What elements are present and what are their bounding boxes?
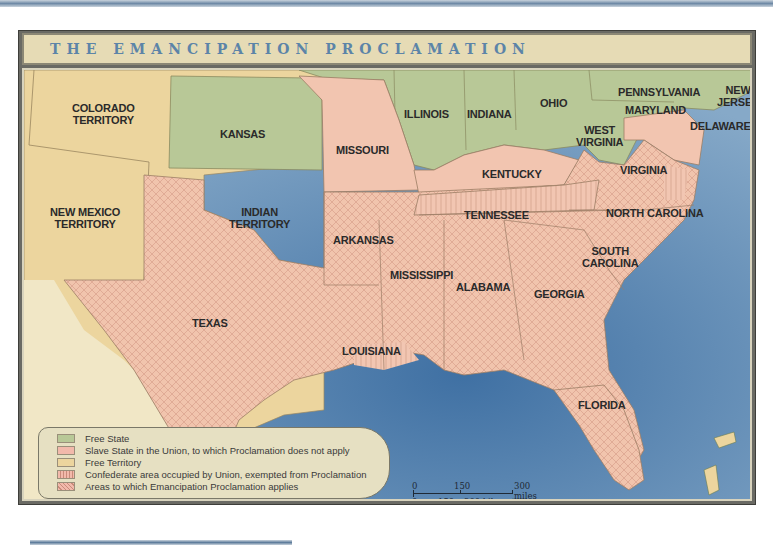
label-tennessee: TENNESSEE: [464, 209, 529, 221]
label-missouri: MISSOURI: [336, 144, 389, 156]
label-alabama: ALABAMA: [456, 281, 510, 293]
swatch-crosshatch: [57, 482, 75, 491]
label-texas: TEXAS: [192, 317, 228, 329]
label-louisiana: LOUISIANA: [342, 345, 401, 357]
label-illinois: ILLINOIS: [404, 108, 449, 120]
label-kentucky: KENTUCKY: [482, 168, 542, 180]
label-new-jersey: NEWJERSEY: [717, 84, 752, 108]
scale-line: [413, 493, 513, 494]
label-new-mexico-territory: NEW MEXICOTERRITORY: [50, 206, 120, 230]
label-indian-territory: INDIANTERRITORY: [229, 206, 290, 230]
title-bar: THE EMANCIPATION PROCLAMATION: [22, 33, 752, 65]
label-south-carolina: SOUTHCAROLINA: [582, 245, 638, 269]
legend-item-proclamation-applies: Areas to which Emancipation Proclamation…: [57, 480, 389, 492]
legend-item-slave-state-union: Slave State in the Union, to which Procl…: [57, 444, 389, 456]
label-north-carolina: NORTH CAROLINA: [606, 207, 703, 219]
label-west-virginia: WESTVIRGINIA: [576, 124, 623, 148]
label-georgia: GEORGIA: [534, 288, 585, 300]
label-delaware: DELAWARE: [690, 120, 751, 132]
label-mississippi: MISSISSIPPI: [390, 269, 453, 281]
label-kansas: KANSAS: [220, 128, 265, 140]
swatch-slave-state: [57, 446, 75, 455]
label-florida: FLORIDA: [578, 399, 625, 411]
label-virginia: VIRGINIA: [620, 164, 667, 176]
swatch-free-state: [57, 434, 75, 443]
map-title: THE EMANCIPATION PROCLAMATION: [50, 41, 531, 57]
label-arkansas: ARKANSAS: [333, 234, 394, 246]
legend-item-free-territory: Free Territory: [57, 456, 389, 468]
label-maryland: MARYLAND: [625, 104, 686, 116]
bottom-decorative-rule: [30, 540, 292, 545]
label-ohio: OHIO: [540, 97, 567, 109]
legend-item-confederate-occupied: Confederate area occupied by Union, exem…: [57, 468, 389, 480]
legend-item-free-state: Free State: [57, 432, 389, 444]
label-pennsylvania: PENNSYLVANIA: [618, 86, 700, 98]
swatch-vertical-lines: [57, 470, 75, 479]
map-legend: Free State Slave State in the Union, to …: [38, 427, 390, 499]
map-area: COLORADOTERRITORY KANSAS NEW MEXICOTERRI…: [22, 68, 752, 501]
top-decorative-rule: [0, 0, 773, 7]
label-indiana: INDIANA: [467, 108, 511, 120]
swatch-free-territory: [57, 458, 75, 467]
scale-bar: 0 150 300 miles 0 150 300 kilometers: [412, 481, 542, 501]
label-colorado-territory: COLORADOTERRITORY: [72, 102, 135, 126]
